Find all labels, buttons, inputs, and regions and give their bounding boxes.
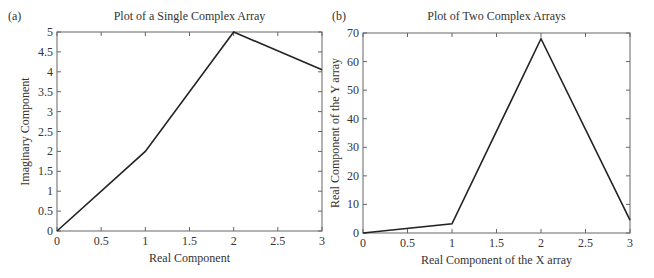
y-tick-label: 5 [47, 25, 53, 39]
y-axis-label: Real Component of the Y array [328, 58, 342, 208]
x-axis-label: Real Component of the X array [421, 253, 572, 267]
y-tick-label: 60 [347, 55, 359, 69]
y-tick-label: 70 [347, 26, 359, 40]
y-tick-label: 0.5 [38, 204, 53, 218]
y-tick-label: 10 [347, 197, 359, 211]
x-tick-label: 2.5 [578, 236, 593, 250]
y-tick-label: 0 [353, 226, 359, 240]
data-line [57, 32, 322, 231]
y-tick-label: 1.5 [38, 164, 53, 178]
plot-frame [57, 32, 322, 231]
x-tick-label: 0.5 [400, 236, 415, 250]
chart-title: Plot of a Single Complex Array [114, 9, 266, 23]
x-tick-label: 0 [360, 236, 366, 250]
y-tick-label: 2 [47, 144, 53, 158]
y-tick-label: 30 [347, 140, 359, 154]
y-tick-label: 3 [47, 105, 53, 119]
chart-panel-a: (a)Plot of a Single Complex Array00.511.… [8, 9, 325, 265]
x-tick-label: 1.5 [489, 236, 504, 250]
figure-canvas: (a)Plot of a Single Complex Array00.511.… [0, 0, 654, 278]
x-tick-label: 0 [54, 234, 60, 248]
x-tick-label: 0.5 [94, 234, 109, 248]
figure: (a)Plot of a Single Complex Array00.511.… [0, 0, 654, 278]
panel-label: (a) [8, 9, 21, 23]
x-tick-label: 3 [627, 236, 633, 250]
x-tick-label: 3 [319, 234, 325, 248]
y-axis-label: Imaginary Component [18, 77, 32, 186]
chart-panel-b: (b)Plot of Two Complex Arrays00.511.522.… [328, 9, 633, 267]
chart-title: Plot of Two Complex Arrays [427, 9, 566, 23]
y-tick-label: 40 [347, 112, 359, 126]
y-tick-label: 4 [47, 65, 53, 79]
x-axis-label: Real Component [149, 251, 231, 265]
y-tick-label: 0 [47, 224, 53, 238]
x-tick-label: 2.5 [270, 234, 285, 248]
data-line [363, 39, 630, 233]
y-tick-label: 1 [47, 184, 53, 198]
x-tick-label: 1 [449, 236, 455, 250]
x-tick-label: 2 [538, 236, 544, 250]
y-tick-label: 4.5 [38, 45, 53, 59]
y-tick-label: 50 [347, 83, 359, 97]
x-tick-label: 1.5 [182, 234, 197, 248]
y-tick-label: 3.5 [38, 85, 53, 99]
panel-label: (b) [332, 9, 346, 23]
x-tick-label: 2 [231, 234, 237, 248]
y-tick-label: 20 [347, 169, 359, 183]
x-tick-label: 1 [142, 234, 148, 248]
y-tick-label: 2.5 [38, 125, 53, 139]
